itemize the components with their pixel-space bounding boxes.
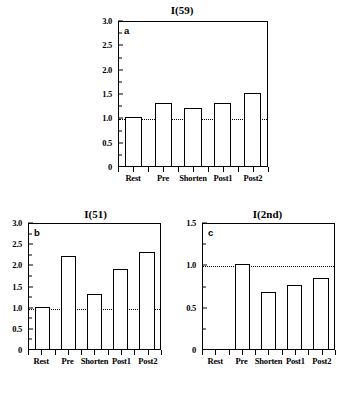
y-tick-label-b-6: 0 — [18, 345, 28, 355]
y-tick-label-c-2: 0.5 — [186, 303, 202, 313]
bar-slot-pre-c — [229, 224, 255, 349]
x-axis-ticks-b-mid — [41, 350, 174, 355]
bar-post2-c — [313, 278, 328, 349]
plot-area-b: b 3.0 2.5 2.0 1.5 1.0 — [28, 223, 161, 350]
y-tick-label-c-0: 1.5 — [186, 218, 202, 228]
y-tick-label-a-3: 1.5 — [102, 89, 118, 99]
x-label-a-4: Post2 — [238, 173, 268, 183]
bar-slot-rest-c — [203, 224, 229, 349]
bar-pre-c — [235, 264, 250, 349]
x-label-c-2: Shorten — [255, 356, 282, 366]
bar-post2-a — [244, 93, 261, 166]
x-label-a-2: Shorten — [178, 173, 208, 183]
chart-title-a: I(59) — [92, 4, 272, 16]
figure-panel-group: I(59) a 3.0 2.5 2.0 — [0, 0, 347, 403]
bar-pre-a — [155, 103, 172, 166]
bar-slot-shorten-c — [255, 224, 281, 349]
y-tick-label-b-5: 0.5 — [12, 324, 28, 334]
y-tick-label-b-1: 2.5 — [12, 239, 28, 249]
bar-slot-shorten-a — [178, 22, 208, 166]
bar-post1-c — [287, 285, 302, 349]
bar-rest-a — [125, 117, 142, 166]
bar-slot-post2-c — [308, 224, 334, 349]
bar-slot-rest-a — [119, 22, 149, 166]
x-label-b-0: Rest — [28, 356, 54, 366]
y-tick-label-a-5: 0.5 — [102, 138, 118, 148]
y-tick-label-a-4: 1.0 — [102, 113, 118, 123]
x-label-a-1: Pre — [148, 173, 178, 183]
x-label-b-2: Shorten — [81, 356, 108, 366]
y-tick-label-a-1: 2.5 — [102, 40, 118, 50]
plot-area-c: c 1.5 1.0 0.5 0 — [202, 223, 335, 350]
bar-shorten-b — [87, 294, 102, 349]
plot-area-a: a 3.0 2.5 2.0 1.5 1. — [118, 21, 268, 167]
bar-slot-shorten-b — [81, 224, 107, 349]
x-label-c-0: Rest — [202, 356, 228, 366]
bar-slot-post1-c — [282, 224, 308, 349]
chart-title-b: I(51) — [28, 208, 163, 220]
x-axis-labels-b: Rest Pre Shorten Post1 Post2 — [28, 356, 161, 366]
bar-slot-post1-a — [208, 22, 238, 166]
bar-slot-post2-a — [237, 22, 267, 166]
chart-panel-a: I(59) a 3.0 2.5 2.0 — [92, 4, 292, 200]
bar-post1-b — [113, 269, 128, 349]
x-label-b-4: Post2 — [135, 356, 161, 366]
x-axis-labels-a: Rest Pre Shorten Post1 Post2 — [118, 173, 268, 183]
x-axis-ticks-a-mid — [133, 167, 283, 172]
x-label-c-4: Post2 — [309, 356, 335, 366]
x-label-a-0: Rest — [118, 173, 148, 183]
chart-panel-b: I(51) b 3.0 2.5 2.0 1.5 — [2, 208, 174, 403]
x-label-c-1: Pre — [228, 356, 254, 366]
bar-shorten-a — [184, 108, 201, 166]
x-label-c-3: Post1 — [282, 356, 308, 366]
y-tick-label-b-4: 1.0 — [12, 303, 28, 313]
x-axis-ticks-c-mid — [215, 350, 347, 355]
y-tick-label-b-3: 1.5 — [12, 282, 28, 292]
y-tick-label-b-2: 2.0 — [12, 260, 28, 270]
plot-frame-c: c — [202, 223, 335, 350]
bar-post1-a — [214, 103, 231, 166]
y-tick-label-c-3: 0 — [192, 345, 202, 355]
x-label-b-1: Pre — [54, 356, 80, 366]
plot-frame-a: a — [118, 21, 268, 167]
bar-slot-pre-b — [55, 224, 81, 349]
bar-series-c — [203, 224, 334, 349]
x-label-a-3: Post1 — [208, 173, 238, 183]
bar-shorten-c — [261, 292, 276, 349]
bar-slot-post1-b — [108, 224, 134, 349]
bar-slot-post2-b — [134, 224, 160, 349]
chart-title-c: I(2nd) — [200, 208, 335, 220]
y-tick-label-c-1: 1.0 — [186, 260, 202, 270]
bar-post2-b — [139, 252, 154, 349]
x-label-b-3: Post1 — [108, 356, 134, 366]
y-tick-label-a-0: 3.0 — [102, 16, 118, 26]
x-axis-labels-c: Rest Pre Shorten Post1 Post2 — [202, 356, 335, 366]
chart-panel-c: I(2nd) c 1.5 1.0 0.5 0 — [180, 208, 347, 403]
bar-pre-b — [61, 256, 76, 349]
bar-rest-b — [35, 307, 50, 349]
y-tick-label-a-2: 2.0 — [102, 65, 118, 75]
plot-frame-b: b — [28, 223, 161, 350]
bar-series-b — [29, 224, 160, 349]
y-tick-label-b-0: 3.0 — [12, 218, 28, 228]
bar-series-a — [119, 22, 267, 166]
bar-slot-pre-a — [149, 22, 179, 166]
y-tick-label-a-6: 0 — [108, 162, 118, 172]
